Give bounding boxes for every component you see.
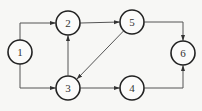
edge-1-3 xyxy=(20,64,56,88)
node-2-label: 2 xyxy=(65,17,71,29)
node-1-label: 1 xyxy=(17,46,23,58)
node-3-label: 3 xyxy=(65,82,71,94)
edge-4-6 xyxy=(145,66,184,89)
edge-1-2 xyxy=(20,23,56,40)
node-3: 3 xyxy=(56,76,80,100)
edge-5-6 xyxy=(145,22,184,41)
node-5-label: 5 xyxy=(129,16,135,28)
node-2: 2 xyxy=(56,11,80,35)
node-6-label: 6 xyxy=(180,47,186,59)
node-5: 5 xyxy=(120,10,144,34)
edge-5-3 xyxy=(77,31,124,79)
node-4-label: 4 xyxy=(129,82,135,94)
node-6: 6 xyxy=(171,41,195,65)
edge-2-5 xyxy=(81,22,120,23)
node-1: 1 xyxy=(8,40,32,64)
node-4: 4 xyxy=(120,76,144,100)
network-diagram: 1 2 3 4 5 6 xyxy=(0,0,202,111)
